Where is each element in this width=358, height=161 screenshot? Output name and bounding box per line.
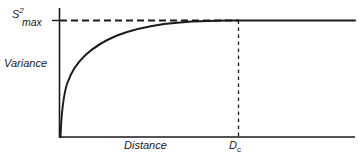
range-subscript: c <box>237 145 241 154</box>
variogram-figure: S2 max Variance Distance Dc <box>0 0 358 161</box>
y-axis-sill-label: S2 max <box>8 7 56 28</box>
variogram-curve <box>61 21 356 138</box>
x-axis-title: Distance <box>124 140 167 152</box>
y-axis-title: Variance <box>4 58 47 70</box>
x-axis-range-label: Dc <box>229 140 241 155</box>
range-symbol: D <box>229 139 237 151</box>
sill-superscript: 2 <box>19 6 23 15</box>
